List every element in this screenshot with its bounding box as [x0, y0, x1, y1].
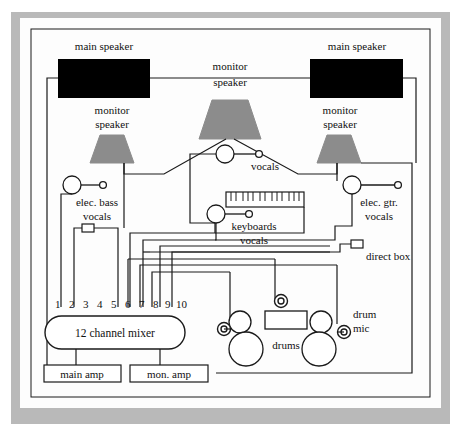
mixer-channel-6[interactable]: 6	[125, 298, 131, 310]
main-speaker-right	[310, 59, 403, 98]
mixer-channel-8[interactable]: 8	[153, 298, 159, 310]
mixer-channel-numbers: 12345678910	[52, 298, 178, 312]
microphone-elec-gtr-capsule	[395, 182, 402, 189]
microphone-elec-bass-body	[63, 176, 81, 194]
drum-snare	[265, 311, 307, 329]
mixer-channel-1[interactable]: 1	[55, 298, 61, 310]
cable-bundle-ch7	[172, 252, 330, 307]
cable-direct-box-left-to-ch2	[74, 228, 82, 307]
label-monitor-speaker-right-line2: speaker	[323, 118, 357, 130]
label-monitor-speaker-center-line1: monitor	[213, 60, 248, 72]
monitor-speaker-right	[317, 135, 361, 163]
microphone-elec-bass-capsule	[100, 182, 107, 189]
main-speaker-left	[58, 59, 150, 98]
label-elec-gtr-line1: elec. gtr.	[360, 196, 398, 208]
label-monitor-speaker-left-line1: monitor	[95, 104, 130, 116]
label-monitor-speaker-left-line2: speaker	[95, 118, 129, 130]
cable-right-main-speaker-feed	[403, 78, 416, 163]
diagram-canvas: main speaker main speaker monitor speake…	[0, 0, 461, 440]
label-mon-amp: mon. amp	[147, 368, 191, 380]
label-drum-mic-line1: drum	[353, 308, 376, 320]
label-elec-bass-line1: elec. bass	[76, 196, 118, 208]
drum-floor-right	[302, 332, 336, 366]
drum-tom-right	[310, 311, 332, 333]
label-keyboards-line1: keyboards	[231, 220, 276, 232]
mixer-channel-4[interactable]: 4	[97, 298, 103, 310]
cable-keyboards-vocals-to-mixer	[150, 223, 216, 240]
mixer-channel-5[interactable]: 5	[111, 298, 117, 310]
label-drum-mic-line2: mic	[353, 322, 370, 334]
drum-kick-left	[229, 332, 263, 366]
label-main-speaker-right: main speaker	[328, 40, 386, 52]
label-direct-box: direct box	[366, 250, 410, 262]
cable-center-monitor-to-left-monitor	[124, 139, 226, 174]
microphone-keyboards-body	[207, 205, 225, 223]
label-elec-gtr-line2: vocals	[365, 210, 393, 222]
label-keyboards-line2: vocals	[240, 234, 268, 246]
drum-mic-center	[275, 295, 288, 308]
mixer-channel-9[interactable]: 9	[165, 298, 171, 310]
direct-box-right	[351, 240, 363, 248]
cable-left-monitor-feed	[94, 228, 118, 307]
microphone-elec-gtr-body	[343, 176, 361, 194]
cable-bundle-ch5	[143, 240, 150, 307]
monitor-speaker-left	[90, 135, 134, 163]
label-main-amp: main amp	[60, 368, 104, 380]
mixer-channel-3[interactable]: 3	[83, 298, 89, 310]
label-monitor-speaker-right-line1: monitor	[323, 104, 358, 116]
label-elec-bass-line2: vocals	[83, 210, 111, 222]
microphone-vocals-center-capsule	[256, 151, 263, 158]
label-monitor-speaker-center-line2: speaker	[213, 76, 247, 88]
cable-elec-bass-mic-to-ch1	[61, 194, 72, 307]
microphone-keyboards-capsule	[246, 211, 253, 218]
monitor-speaker-center	[199, 100, 261, 139]
mixer-channel-2[interactable]: 2	[69, 298, 75, 310]
label-mixer: 12 channel mixer	[75, 327, 155, 339]
drum-tom-left	[229, 311, 251, 333]
mixer-channel-7[interactable]: 7	[139, 298, 145, 310]
label-main-speaker-left: main speaker	[75, 40, 133, 52]
microphone-vocals-center-body	[216, 145, 234, 163]
direct-box-left	[82, 224, 94, 232]
label-vocals-center: vocals	[251, 160, 279, 172]
label-drums: drums	[272, 339, 300, 351]
mixer-channel-10[interactable]: 10	[176, 298, 187, 310]
